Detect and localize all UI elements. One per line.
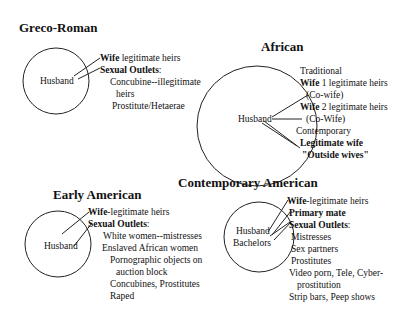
early-american-list: Wife-legitimate heirs Sexual Outlets: Wh…	[88, 206, 202, 302]
african-husband-label: Husband	[238, 113, 272, 125]
greco-roman-list: Wife legitimate heirs Sexual Outlets: Co…	[100, 52, 201, 112]
contemporary-american-husband-label: Husband	[236, 225, 270, 237]
contemporary-american-title: Contemporary American	[178, 175, 318, 191]
early-american-title: Early American	[53, 187, 141, 203]
early-american-husband-label: Husband	[44, 240, 78, 252]
contemporary-american-list: Wife-legitimate heirs Primary mate Sexua…	[287, 195, 383, 303]
african-list: Traditional Wife 1 legitimate heirs (Co-…	[296, 65, 388, 161]
greco-roman-title: Greco-Roman	[19, 20, 97, 36]
african-title: African	[261, 39, 304, 55]
contemporary-american-bachelors-label: Bachelors	[233, 237, 271, 249]
greco-roman-husband-label: Husband	[40, 75, 74, 87]
